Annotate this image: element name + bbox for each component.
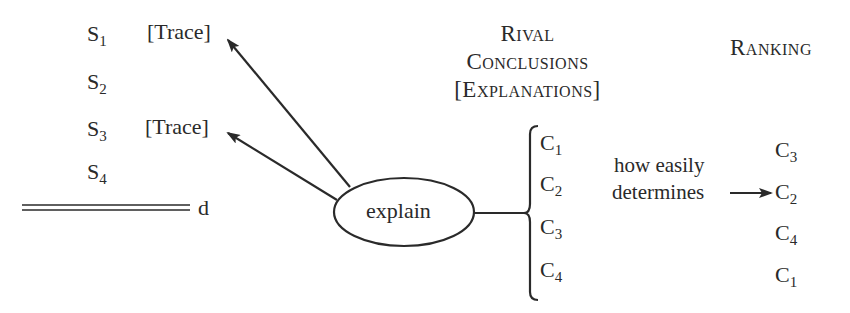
ranking-item-3: C4	[775, 221, 797, 245]
baseline-label-d: d	[198, 196, 209, 220]
rival-c4: C4	[540, 258, 562, 282]
trace-label-s3: [Trace]	[145, 115, 209, 139]
trace-label-s1: [Trace]	[147, 20, 211, 44]
rival-c2: C2	[540, 172, 562, 196]
arrow-to-trace-1	[228, 40, 350, 187]
criterion-line-2: determines	[612, 180, 704, 204]
criterion-line-1: how easily	[614, 153, 704, 177]
arrow-to-trace-3	[228, 133, 337, 200]
evidence-s4: S4	[87, 160, 107, 184]
curly-brace	[524, 126, 538, 300]
rival-c3: C3	[540, 215, 562, 239]
evidence-s2: S2	[87, 70, 107, 94]
rival-conclusions-header: Rival Conclusions [Explanations]	[425, 20, 630, 104]
evidence-s3: S3	[87, 117, 107, 141]
explain-label: explain	[366, 199, 431, 223]
baseline-double-line	[22, 205, 190, 210]
ranking-header: Ranking	[730, 34, 812, 62]
ranking-item-1: C3	[775, 138, 797, 162]
evidence-s1: S1	[87, 22, 107, 46]
rival-c1: C1	[540, 131, 562, 155]
ranking-item-4: C1	[775, 263, 797, 287]
ranking-item-2: C2	[775, 180, 797, 204]
